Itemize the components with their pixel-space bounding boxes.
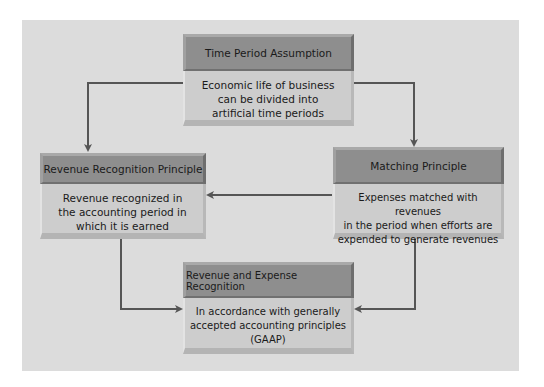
node-title: Time Period Assumption (183, 34, 354, 71)
node-title: Matching Principle (333, 147, 504, 184)
node-title: Revenue Recognition Principle (40, 153, 206, 184)
node-line: Economic life of business (202, 78, 335, 92)
node-line: (GAAP) (190, 333, 346, 347)
node-body: Revenue recognized in the accounting per… (40, 184, 206, 239)
node-time-period-assumption: Time Period Assumption Economic life of … (183, 34, 354, 126)
node-line: the accounting period in (58, 205, 186, 219)
arrow-matching-to-recognition (356, 238, 415, 309)
arrow-time-to-matching (354, 83, 414, 145)
arrow-time-to-revenue (88, 83, 183, 150)
node-line: accepted accounting principles (190, 319, 346, 333)
node-revenue-recognition-principle: Revenue Recognition Principle Revenue re… (40, 153, 206, 239)
node-line: artificial time periods (202, 106, 335, 120)
node-body: Expenses matched with revenues in the pe… (333, 184, 504, 239)
node-line: Expenses matched with revenues (335, 191, 501, 219)
node-matching-principle: Matching Principle Expenses matched with… (333, 147, 504, 239)
node-line: in the period when efforts are (335, 219, 501, 233)
node-body: Economic life of business can be divided… (183, 71, 354, 126)
node-line: can be divided into (202, 92, 335, 106)
arrow-revenue-to-recognition (121, 238, 181, 309)
node-revenue-expense-recognition: Revenue and Expense Recognition In accor… (183, 262, 354, 354)
node-body: In accordance with generally accepted ac… (183, 298, 354, 354)
node-line: Revenue recognized in (58, 191, 186, 205)
node-line: which it is earned (58, 219, 186, 233)
node-title: Revenue and Expense Recognition (183, 262, 354, 298)
node-line: In accordance with generally (190, 305, 346, 319)
node-line: expended to generate revenues (335, 233, 501, 247)
